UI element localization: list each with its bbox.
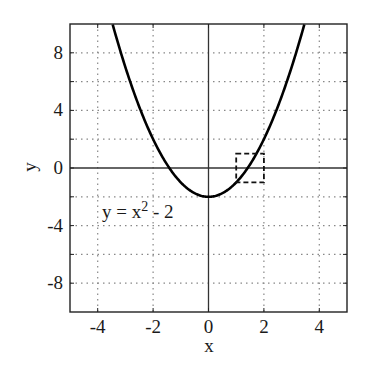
- y-tick-label: 0: [54, 157, 64, 178]
- x-tick-label: 0: [204, 316, 214, 337]
- y-tick-label: 8: [54, 42, 64, 63]
- parabola-chart: -4-2024 -8-4048 y = x2 - 2 x y: [0, 0, 367, 371]
- y-tick-labels: -8-4048: [47, 42, 63, 293]
- x-axis-label: x: [204, 335, 214, 356]
- x-tick-label: -2: [145, 316, 161, 337]
- zero-axes: [70, 24, 347, 312]
- equation-label: y = x2 - 2: [102, 199, 174, 222]
- x-tick-label: 4: [315, 316, 325, 337]
- x-tick-label: -4: [90, 316, 106, 337]
- y-tick-label: -8: [47, 272, 63, 293]
- x-tick-labels: -4-2024: [90, 316, 325, 337]
- y-tick-label: 4: [54, 99, 64, 120]
- y-axis-label: y: [19, 162, 40, 172]
- x-tick-label: 2: [259, 316, 269, 337]
- y-tick-label: -4: [47, 215, 63, 236]
